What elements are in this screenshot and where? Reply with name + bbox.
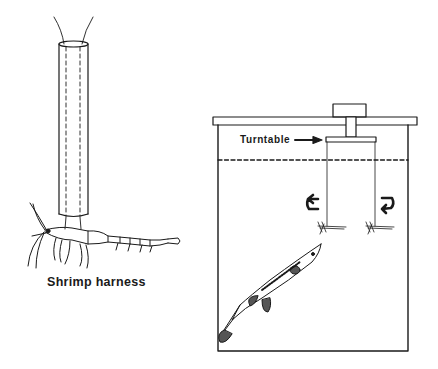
tank-lid — [213, 117, 417, 125]
shrimp-harness-caption: Shrimp harness — [47, 275, 146, 289]
harness-tube — [59, 41, 88, 229]
turntable — [326, 137, 376, 142]
turntable-label: Turntable — [240, 134, 290, 145]
rotation-arrow-right-icon — [382, 198, 393, 213]
shrimp-icon — [28, 203, 180, 268]
shrimp-harness-panel — [28, 17, 180, 268]
thread-left — [54, 17, 64, 44]
tank-walls — [218, 125, 408, 351]
turntable-shaft — [346, 117, 356, 137]
turntable-arrow-icon — [295, 137, 322, 144]
tethered-shrimp-left-icon — [318, 222, 346, 234]
stickleback-fish-icon — [219, 244, 321, 342]
knob — [333, 104, 366, 117]
figure-canvas — [0, 0, 438, 369]
tethered-shrimp-right-icon — [366, 222, 394, 234]
rotation-arrow-left-icon — [307, 195, 318, 209]
thread-right — [82, 17, 93, 44]
